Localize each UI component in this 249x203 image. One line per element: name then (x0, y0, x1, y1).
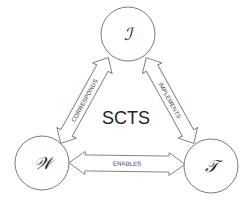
node-w: 𝒲 (15, 136, 69, 190)
scts-diagram: CORRESPONDS IMPLEMENTS ENABLES ℐ 𝒲 𝒯 SCT… (0, 0, 249, 203)
node-i: ℐ (101, 7, 155, 61)
edge-label-enables: ENABLES (113, 161, 141, 167)
node-t: 𝒯 (184, 139, 238, 193)
edge-implements: IMPLEMENTS (137, 52, 204, 148)
edge-corresponds: CORRESPONDS (51, 52, 118, 148)
edge-enables: ENABLES (69, 151, 185, 176)
diagram-title: SCTS (102, 108, 150, 128)
edge-label-corresponds: CORRESPONDS (70, 78, 99, 123)
diagram-canvas: CORRESPONDS IMPLEMENTS ENABLES ℐ 𝒲 𝒯 SCT… (0, 0, 249, 203)
